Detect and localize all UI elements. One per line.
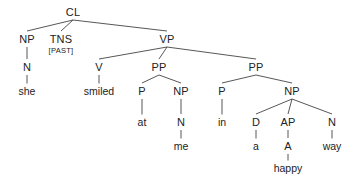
tree-node-way: way — [323, 141, 342, 152]
tree-node-np3: NP — [284, 86, 300, 97]
tree-edge-cl-to-np1 — [27, 20, 73, 31]
tree-node-pp2: PP — [248, 62, 263, 73]
tree-node-a: a — [253, 141, 259, 152]
tree-edge-pp2-to-p2 — [222, 75, 256, 83]
tree-node-me: me — [174, 141, 189, 152]
tree-node-at: at — [138, 117, 147, 128]
tree-edge-vp-to-pp2 — [167, 47, 256, 59]
tree-node-pp1: PP — [151, 62, 166, 73]
tree-node-in: in — [218, 117, 226, 128]
tree-edge-vp-to-pp1 — [159, 47, 167, 59]
tree-node-smiled: smiled — [84, 86, 114, 97]
tree-node-n3: N — [328, 117, 336, 128]
tree-edge-np3-to-ap — [288, 99, 292, 114]
tree-edge-pp1-to-p1 — [142, 75, 159, 83]
tree-node-ap: AP — [280, 117, 295, 128]
tree-edge-np3-to-d — [256, 99, 292, 114]
tree-node-past: [PAST] — [49, 47, 74, 55]
tree-node-np1: NP — [19, 34, 35, 45]
tree-node-v: V — [95, 62, 103, 73]
tree-node-she: she — [19, 86, 36, 97]
tree-node-n1: N — [23, 62, 31, 73]
tree-node-p2: P — [218, 86, 226, 97]
tree-edge-pp1-to-np2 — [159, 75, 181, 83]
tree-node-n2: N — [177, 117, 185, 128]
tree-node-d: D — [252, 117, 260, 128]
tree-node-adj: A — [284, 141, 292, 152]
tree-node-vp: VP — [159, 34, 174, 45]
tree-node-p1: P — [138, 86, 146, 97]
syntax-tree-diagram: CLNPTNS[PAST]VPNVPPPPshesmiledPNPPNPatNi… — [0, 0, 358, 188]
tree-edge-vp-to-v — [99, 47, 167, 59]
tree-node-happy: happy — [274, 163, 303, 174]
tree-node-tns: TNS — [50, 34, 73, 45]
tree-node-cl: CL — [66, 7, 80, 18]
tree-node-np2: NP — [173, 86, 189, 97]
tree-edge-np3-to-n3 — [292, 99, 332, 114]
tree-edge-cl-to-vp — [73, 20, 167, 31]
tree-edge-pp2-to-np3 — [256, 75, 292, 83]
